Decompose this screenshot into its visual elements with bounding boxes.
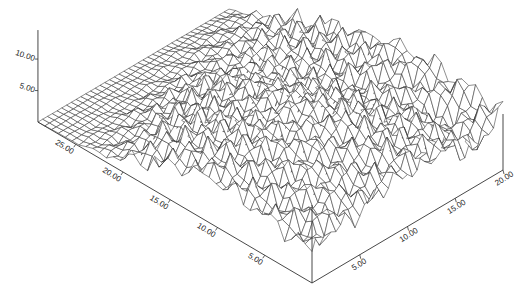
z-tick-label-10: 10.00 (14, 48, 36, 63)
x-tick-label-10: 10.00 (398, 226, 420, 245)
y-tick-label-10: 10.00 (195, 221, 217, 240)
surface-plot: 10.00 5.00 25.00 20.00 15.00 10.00 5.00 … (0, 0, 527, 300)
x-tick-label-15: 15.00 (446, 197, 468, 216)
wireframe-mesh (38, 9, 503, 252)
y-tick-label-20: 20.00 (101, 165, 123, 184)
z-tick-label-5: 5.00 (19, 81, 37, 95)
x-tick-label-20: 20.00 (493, 169, 515, 188)
y-tick-label-15: 15.00 (148, 193, 170, 212)
